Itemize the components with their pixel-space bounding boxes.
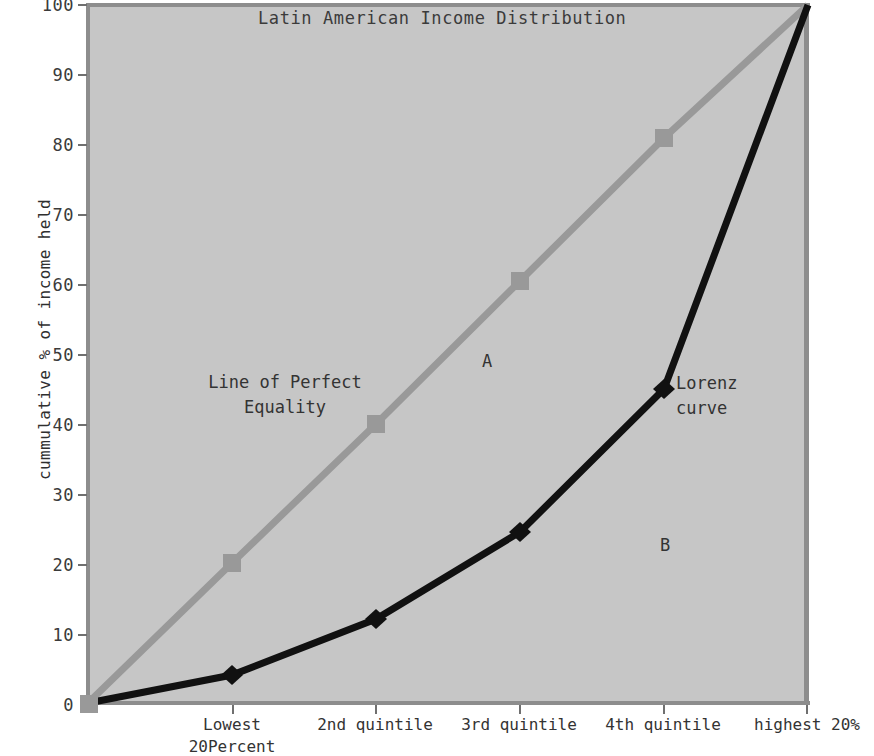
region-b-label: B: [660, 533, 670, 558]
equality-line: [88, 5, 808, 703]
equality-marker-0: [80, 695, 98, 713]
equality-marker-3: [511, 272, 529, 290]
equality-label: Line of Perfect Equality: [190, 370, 380, 419]
lorenz-label: Lorenz curve: [676, 371, 796, 420]
equality-marker-1: [223, 554, 241, 572]
lorenz-marker-1: [221, 665, 243, 685]
equality-marker-4: [655, 129, 673, 147]
region-a-label: A: [482, 349, 492, 374]
